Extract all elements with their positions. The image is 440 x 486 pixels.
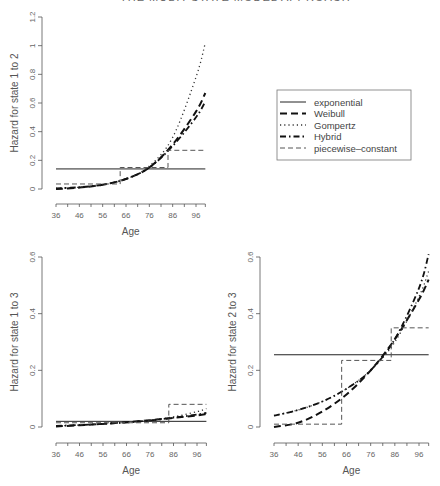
series-Gompertz — [56, 409, 206, 426]
x-tick-label: 76 — [146, 450, 155, 459]
y-tick-label: 0.2 — [28, 364, 37, 376]
series-Hybrid — [56, 413, 206, 426]
y-tick-label: 0.4 — [28, 126, 37, 138]
y-tick-label: 0.6 — [28, 97, 37, 109]
y-tick-label: 0.4 — [28, 308, 37, 320]
x-tick-label: 86 — [169, 450, 178, 459]
y-tick-label: 1.2 — [28, 11, 37, 23]
x-tick-label: 46 — [294, 450, 303, 459]
x-tick-label: 96 — [193, 450, 202, 459]
y-axis-title: Hazard for state 1 to 3 — [9, 292, 20, 391]
y-tick-label: 0 — [28, 186, 37, 191]
legend: exponentialWeibullGompertzHybridpiecewis… — [277, 90, 411, 160]
legend-label: Hybrid — [314, 131, 341, 142]
figure: 00.20.40.60.811.2Hazard for state 1 to 2… — [0, 0, 440, 486]
x-tick-label: 96 — [415, 450, 424, 459]
x-tick-label: 36 — [52, 450, 61, 459]
x-tick-label: 86 — [390, 450, 399, 459]
x-tick-label: 66 — [342, 450, 351, 459]
x-tick-label: 36 — [270, 450, 279, 459]
legend-label: Gompertz — [314, 120, 356, 131]
y-tick-label: 0 — [28, 424, 37, 429]
x-tick-label: 46 — [75, 211, 84, 220]
y-axis-title: Hazard for state 1 to 2 — [9, 53, 20, 152]
x-tick-label: 46 — [75, 450, 84, 459]
y-tick-label: 0.4 — [246, 308, 255, 320]
y-tick-label: 0.6 — [28, 251, 37, 263]
x-tick-label: 36 — [52, 211, 61, 220]
x-tick-label: 66 — [122, 450, 131, 459]
x-tick-label: 76 — [145, 211, 154, 220]
x-tick-label: 56 — [99, 450, 108, 459]
x-tick-label: 96 — [192, 211, 201, 220]
series-Gompertz — [274, 271, 429, 416]
y-tick-label: 0.8 — [28, 68, 37, 80]
chart-hazard-1-to-3: 00.20.40.6Hazard for state 1 to 33646566… — [9, 251, 206, 476]
x-tick-label: 76 — [366, 450, 375, 459]
series-Gompertz — [56, 43, 205, 188]
x-tick-label: 56 — [98, 211, 107, 220]
x-tick-label: 66 — [122, 211, 131, 220]
y-tick-label: 0.2 — [28, 154, 37, 166]
series-piecewise-constant — [56, 404, 206, 422]
y-axis-title: Hazard for state 2 to 3 — [227, 292, 238, 391]
y-tick-label: 1 — [28, 43, 37, 48]
series-Hybrid — [274, 254, 429, 415]
x-axis-title: Age — [122, 465, 140, 476]
series-Weibull — [274, 280, 429, 427]
chart-hazard-1-to-2: 00.20.40.60.811.2Hazard for state 1 to 2… — [9, 11, 205, 237]
x-axis-title: Age — [342, 465, 360, 476]
x-tick-label: 56 — [318, 450, 327, 459]
chart-hazard-2-to-3: 00.20.40.6Hazard for state 2 to 33646566… — [227, 251, 429, 476]
legend-label: exponential — [314, 97, 363, 108]
y-tick-label: 0.6 — [246, 251, 255, 263]
series-Weibull — [56, 93, 205, 189]
series-piecewise-constant — [56, 150, 205, 184]
y-tick-label: 0 — [246, 424, 255, 429]
legend-label: piecewise–constant — [314, 143, 397, 154]
x-tick-label: 86 — [168, 211, 177, 220]
series-Weibull — [56, 414, 206, 426]
legend-label: Weibull — [314, 108, 345, 119]
y-tick-label: 0.2 — [246, 364, 255, 376]
x-axis-title: Age — [122, 226, 140, 237]
